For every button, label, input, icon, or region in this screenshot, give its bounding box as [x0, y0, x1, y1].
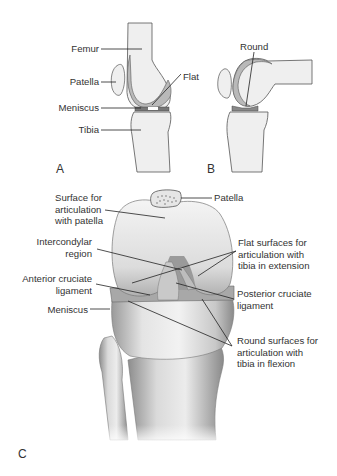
fibula [99, 336, 128, 440]
patella-b [218, 69, 232, 98]
panel-label-b: B [207, 162, 215, 176]
label-round-surfaces: Round surfaces for articulation with tib… [237, 335, 318, 370]
patella-a [111, 64, 124, 95]
label-patella-c: Patella [214, 192, 243, 204]
tibia-plateau [112, 298, 234, 359]
tibia-a [131, 112, 171, 172]
panel-label-a: A [56, 162, 64, 176]
label-surface-patella: Surface for articulation with patella [55, 192, 103, 227]
label-round: Round [240, 41, 268, 53]
label-intercondylar-region: Intercondylar region [20, 236, 92, 259]
panel-c-illustration [95, 190, 234, 445]
panel-b-illustration [218, 58, 312, 172]
panel-a-illustration [111, 23, 171, 172]
tibia-b [227, 112, 268, 172]
panel-label-c: C [18, 447, 27, 461]
patella-c [151, 190, 182, 208]
label-meniscus-a: Meniscus [40, 102, 99, 114]
label-patella-a: Patella [50, 76, 99, 88]
label-femur: Femur [50, 43, 99, 55]
label-flat-surfaces: Flat surfaces for articulation with tibi… [238, 237, 309, 272]
label-flat: Flat [183, 71, 199, 83]
meniscus-b [232, 106, 258, 111]
label-anterior-cruciate-ligament: Anterior cruciate ligament [8, 273, 92, 296]
label-tibia-a: Tibia [50, 124, 99, 136]
label-meniscus-c: Meniscus [30, 304, 88, 316]
label-posterior-cruciate-ligament: Posterior cruciate ligament [237, 288, 312, 311]
